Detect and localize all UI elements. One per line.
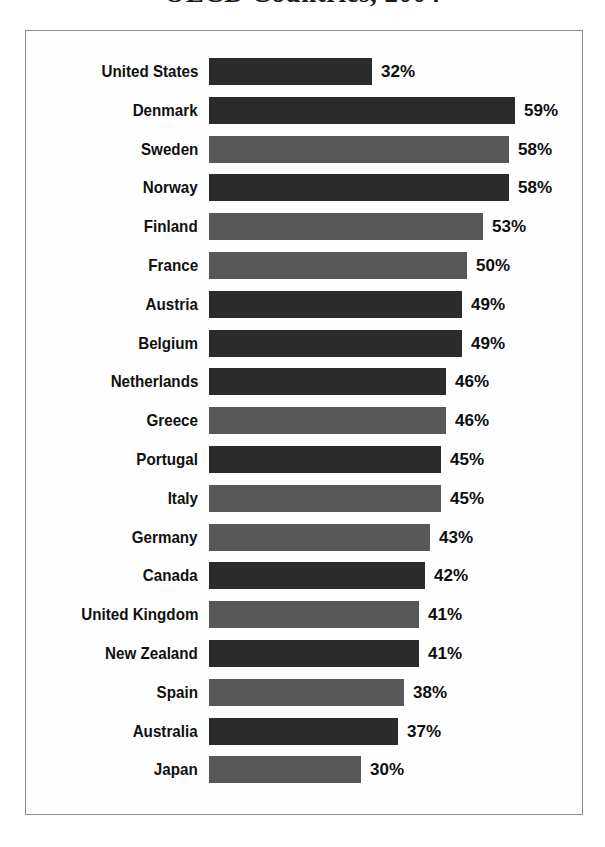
bar-value-label: 38% (413, 679, 447, 706)
bar (209, 330, 462, 357)
bar-value-label: 43% (439, 524, 473, 551)
bar-row: Netherlands46% (26, 368, 582, 395)
bar-value-label: 45% (450, 446, 484, 473)
bar (209, 252, 467, 279)
bar (209, 640, 419, 667)
bar-value-label: 49% (471, 291, 505, 318)
bar (209, 291, 462, 318)
bar (209, 213, 483, 240)
bar-row: New Zealand41% (26, 640, 582, 667)
bar-value-label: 45% (450, 485, 484, 512)
bar (209, 174, 509, 201)
bar-value-label: 32% (381, 58, 415, 85)
bar (209, 524, 430, 551)
bar-row: Finland53% (26, 213, 582, 240)
chart-title-clipped: OECD Countries, 2004 (0, 0, 605, 13)
bar-category-label: New Zealand (105, 640, 198, 667)
bar-row: Portugal45% (26, 446, 582, 473)
bar (209, 368, 446, 395)
bar-value-label: 46% (455, 407, 489, 434)
bar (209, 97, 515, 124)
bar-category-label: Italy (168, 485, 198, 512)
bar-category-label: Norway (143, 174, 198, 201)
bar (209, 58, 372, 85)
bar (209, 718, 398, 745)
bar (209, 562, 425, 589)
bar-row: United Kingdom41% (26, 601, 582, 628)
bar-category-label: Belgium (138, 330, 198, 357)
bar-category-label: Germany (132, 524, 198, 551)
bar-row: Italy45% (26, 485, 582, 512)
bar-category-label: Japan (154, 756, 198, 783)
bar-row: France50% (26, 252, 582, 279)
bar-value-label: 59% (524, 97, 558, 124)
bar (209, 407, 446, 434)
bar-row: Germany43% (26, 524, 582, 551)
bar-value-label: 49% (471, 330, 505, 357)
bar-value-label: 30% (370, 756, 404, 783)
bar-category-label: United Kingdom (81, 601, 198, 628)
bar-category-label: Canada (143, 562, 198, 589)
bar-category-label: Portugal (136, 446, 198, 473)
bar (209, 446, 441, 473)
bar-row: Norway58% (26, 174, 582, 201)
bar-row: Canada42% (26, 562, 582, 589)
bar (209, 679, 404, 706)
bar-row: Australia37% (26, 718, 582, 745)
bar-category-label: Netherlands (110, 368, 198, 395)
bar-chart-plot-area: United States32%Denmark59%Sweden58%Norwa… (26, 31, 582, 814)
bar-value-label: 58% (518, 174, 552, 201)
bar-category-label: Finland (144, 213, 198, 240)
bar-value-label: 41% (428, 601, 462, 628)
bar-value-label: 58% (518, 136, 552, 163)
bar (209, 601, 419, 628)
bar-value-label: 46% (455, 368, 489, 395)
bar-row: Denmark59% (26, 97, 582, 124)
bar-value-label: 37% (407, 718, 441, 745)
bar-category-label: Spain (157, 679, 198, 706)
bar-value-label: 50% (476, 252, 510, 279)
bar-row: Greece46% (26, 407, 582, 434)
bar (209, 136, 509, 163)
bar-category-label: Greece (147, 407, 198, 434)
bar (209, 485, 441, 512)
chart-frame: United States32%Denmark59%Sweden58%Norwa… (25, 30, 583, 815)
bar-row: Spain38% (26, 679, 582, 706)
bar-category-label: France (148, 252, 198, 279)
bar-category-label: United States (101, 58, 198, 85)
chart-title: OECD Countries, 2004 (0, 0, 605, 9)
bar-row: United States32% (26, 58, 582, 85)
bar-category-label: Austria (146, 291, 198, 318)
bar-value-label: 42% (434, 562, 468, 589)
bar-row: Austria49% (26, 291, 582, 318)
bar-value-label: 41% (428, 640, 462, 667)
bar (209, 756, 361, 783)
bar-row: Sweden58% (26, 136, 582, 163)
bar-category-label: Sweden (141, 136, 198, 163)
bar-row: Belgium49% (26, 330, 582, 357)
bar-category-label: Denmark (133, 97, 198, 124)
bar-value-label: 53% (492, 213, 526, 240)
bar-row: Japan30% (26, 756, 582, 783)
bar-category-label: Australia (133, 718, 198, 745)
